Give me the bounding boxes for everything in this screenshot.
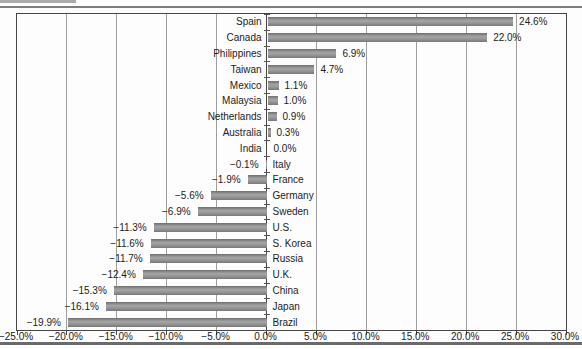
- x-tick-label: 5.0%: [304, 331, 327, 342]
- value-label: −11.6%: [110, 238, 143, 249]
- x-tick-label: −15.0%: [99, 331, 133, 342]
- category-label: S. Korea: [273, 238, 312, 249]
- value-label: 6.9%: [342, 48, 365, 59]
- gridline: [316, 14, 317, 330]
- gridline: [366, 14, 367, 330]
- value-label: 0.9%: [283, 111, 306, 122]
- value-label: −5.6%: [175, 190, 204, 201]
- gridline: [166, 14, 167, 330]
- category-label: Russia: [273, 253, 304, 264]
- bar-italy: [266, 160, 267, 169]
- category-axis-tick-mark: [264, 314, 270, 315]
- value-label: −19.9%: [27, 317, 61, 328]
- category-label: Japan: [273, 301, 300, 312]
- x-tick-label: 25.0%: [501, 331, 529, 342]
- category-label: Netherlands: [208, 111, 262, 122]
- bar-mexico: [268, 81, 279, 90]
- category-label: Brazil: [273, 317, 298, 328]
- category-axis-tick-mark: [264, 251, 270, 252]
- category-axis-tick-mark: [264, 298, 270, 299]
- value-label: 0.0%: [274, 143, 297, 154]
- category-label: India: [240, 143, 262, 154]
- category-axis-tick-mark: [264, 283, 270, 284]
- category-label: U.K.: [273, 269, 292, 280]
- category-axis-tick-mark: [264, 156, 270, 157]
- bar-china: [114, 286, 267, 295]
- category-axis-tick-mark: [264, 125, 270, 126]
- value-label: 4.7%: [320, 64, 343, 75]
- bar-canada: [268, 33, 488, 42]
- category-label: Sweden: [273, 206, 309, 217]
- bar-france: [248, 175, 267, 184]
- value-label: −15.3%: [73, 285, 107, 296]
- x-tick-label: −5.0%: [201, 331, 230, 342]
- x-tick-label: −10.0%: [149, 331, 183, 342]
- category-axis-tick-mark: [264, 219, 270, 220]
- x-tick-label: 20.0%: [451, 331, 479, 342]
- category-label: Canada: [227, 32, 262, 43]
- gridline: [216, 14, 217, 330]
- value-label: −12.4%: [102, 269, 136, 280]
- bar-chart-plot-area: Spain24.6%Canada22.0%Philippines6.9%Taiw…: [16, 13, 567, 331]
- bar-philippines: [268, 49, 337, 58]
- gridline: [516, 14, 517, 330]
- category-label: Italy: [273, 159, 291, 170]
- bar-u-k-: [143, 270, 267, 279]
- category-axis-tick-mark: [264, 235, 270, 236]
- category-axis-tick-mark: [264, 14, 270, 15]
- x-tick-label: −25.0%: [0, 331, 33, 342]
- x-tick-label: −20.0%: [49, 331, 83, 342]
- category-label: Australia: [223, 127, 262, 138]
- category-axis-tick-mark: [264, 172, 270, 173]
- category-axis-tick-mark: [264, 46, 270, 47]
- bottom-horizontal-rule: [0, 342, 582, 345]
- bar-germany: [211, 191, 267, 200]
- category-axis-tick-mark: [264, 61, 270, 62]
- category-axis-tick-mark: [264, 77, 270, 78]
- category-label: Philippines: [213, 48, 261, 59]
- value-label: 1.0%: [284, 95, 307, 106]
- value-label: −11.3%: [113, 222, 146, 233]
- x-tick-label: 10.0%: [351, 331, 379, 342]
- x-tick-label: 30.0%: [551, 331, 579, 342]
- bar-malaysia: [268, 96, 278, 105]
- category-axis-tick-mark: [264, 30, 270, 31]
- category-axis-tick-mark: [264, 93, 270, 94]
- bar-japan: [106, 302, 267, 311]
- value-label: −16.1%: [65, 301, 99, 312]
- category-label: Spain: [236, 16, 262, 27]
- category-axis-tick-mark: [264, 188, 270, 189]
- category-label: Germany: [273, 190, 314, 201]
- value-label: −6.9%: [162, 206, 191, 217]
- x-tick-label: 15.0%: [401, 331, 429, 342]
- x-tick-label: 0.0%: [254, 331, 277, 342]
- bar-netherlands: [268, 112, 277, 121]
- category-label: China: [273, 285, 299, 296]
- value-label: −1.9%: [212, 174, 241, 185]
- bar-taiwan: [268, 65, 315, 74]
- value-label: 22.0%: [493, 32, 521, 43]
- gridline: [416, 14, 417, 330]
- gridline: [466, 14, 467, 330]
- category-axis-tick-mark: [264, 267, 270, 268]
- category-axis-tick-mark: [264, 204, 270, 205]
- category-label: Taiwan: [230, 64, 261, 75]
- category-label: U.S.: [273, 222, 292, 233]
- bar-sweden: [198, 207, 267, 216]
- value-label: 0.3%: [277, 127, 300, 138]
- gridline: [66, 14, 67, 330]
- category-label: France: [273, 174, 304, 185]
- bar-australia: [268, 128, 271, 137]
- bar-u-s-: [154, 223, 267, 232]
- value-label: 1.1%: [285, 80, 308, 91]
- bar-russia: [150, 254, 267, 263]
- category-axis-tick-mark: [264, 109, 270, 110]
- category-label: Mexico: [230, 80, 262, 91]
- value-label: −11.7%: [109, 253, 142, 264]
- value-label: 24.6%: [519, 16, 547, 27]
- bar-brazil: [68, 318, 267, 327]
- top-horizontal-rule: [0, 6, 582, 8]
- page: Spain24.6%Canada22.0%Philippines6.9%Taiw…: [0, 0, 582, 349]
- value-label: −0.1%: [230, 159, 259, 170]
- scan-artifact-bar: [0, 0, 76, 3]
